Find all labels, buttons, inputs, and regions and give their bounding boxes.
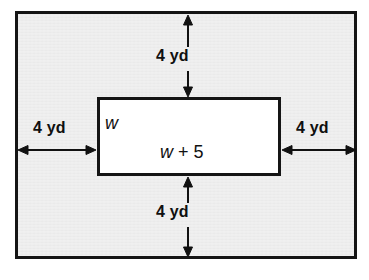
inner-white-rectangle	[97, 97, 281, 176]
inner-width-label: w + 5	[160, 142, 204, 163]
dimension-label-left: 4 yd	[33, 119, 66, 137]
inner-width-label-rest: + 5	[173, 142, 204, 162]
dimension-label-right: 4 yd	[296, 119, 329, 137]
dimension-label-bottom: 4 yd	[156, 203, 189, 221]
inner-width-label-variable: w	[160, 142, 173, 162]
dimension-label-top: 4 yd	[156, 47, 189, 65]
inner-height-label: w	[105, 113, 118, 134]
geometry-diagram: 4 yd 4 yd 4 yd 4 yd w w + 5	[0, 0, 369, 280]
